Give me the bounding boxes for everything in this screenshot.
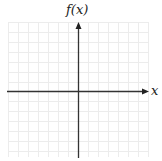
y-axis-label: f(x) bbox=[66, 3, 88, 16]
x-axis-label: x bbox=[151, 84, 158, 97]
coordinate-grid bbox=[0, 0, 162, 161]
y-axis-arrow-icon bbox=[76, 22, 82, 29]
x-axis-arrow-icon bbox=[142, 89, 149, 95]
